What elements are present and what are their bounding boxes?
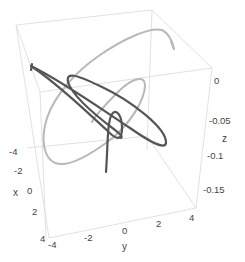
3d-plot[interactable]: 0 -0.05 z -0.1 -0.15 -4 -2 x 0 2 4 -4 -2…	[0, 0, 245, 262]
z-axis-label: z	[222, 133, 227, 144]
z-tick-0: 0	[214, 75, 219, 86]
x-tick-4: 4	[40, 233, 45, 244]
y-tick-3: 2	[156, 218, 161, 229]
z-tick-2: -0.1	[207, 150, 223, 161]
z-tick-1: -0.05	[209, 115, 231, 126]
series-dark-curve	[31, 64, 166, 172]
x-tick-2: 0	[27, 185, 32, 196]
x-tick-0: -4	[9, 146, 17, 157]
x-tick-3: 2	[32, 206, 37, 217]
z-axis: 0 -0.05 z -0.1 -0.15	[203, 75, 231, 195]
z-tick-3: -0.15	[203, 184, 225, 195]
y-tick-4: 4	[189, 212, 194, 223]
y-axis: -4 -2 0 2 4 y	[48, 212, 194, 252]
x-axis: -4 -2 x 0 2 4	[9, 146, 45, 244]
y-axis-label: y	[122, 241, 127, 252]
y-tick-1: -2	[84, 232, 92, 243]
x-axis-label: x	[13, 187, 18, 198]
x-tick-1: -2	[14, 165, 22, 176]
y-tick-0: -4	[48, 239, 56, 250]
y-tick-2: 0	[122, 225, 127, 236]
